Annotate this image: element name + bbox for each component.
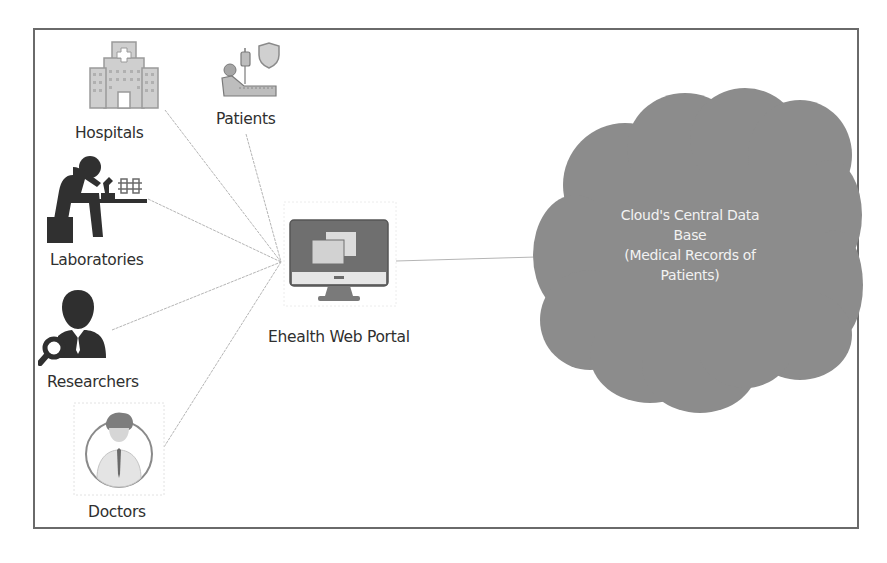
- edge-patients-portal: [246, 134, 281, 262]
- researchers-label: Researchers: [47, 373, 139, 391]
- edge-doctors-portal: [164, 262, 281, 447]
- edge-laboratories-portal: [148, 199, 281, 262]
- laboratories-label: Laboratories: [50, 251, 144, 269]
- patients-label: Patients: [216, 110, 276, 128]
- edge-researchers-portal: [112, 262, 281, 330]
- hospital-icon: [88, 40, 160, 110]
- cloud-line-1: Cloud's Central Data: [590, 205, 790, 225]
- doctors-label: Doctors: [88, 503, 146, 521]
- doctor-icon: [73, 402, 165, 496]
- lab-scientist-icon: [45, 153, 150, 248]
- hospitals-label: Hospitals: [75, 124, 144, 142]
- researcher-icon: [38, 288, 116, 366]
- monitor-icon: [282, 200, 398, 308]
- edge-portal-cloud: [396, 257, 536, 261]
- portal-label: Ehealth Web Portal: [268, 328, 410, 346]
- cloud-database-label: Cloud's Central Data Base (Medical Recor…: [590, 205, 790, 285]
- cloud-line-3: (Medical Records of: [590, 245, 790, 265]
- edge-hospitals-portal: [165, 110, 281, 262]
- cloud-line-4: Patients): [590, 265, 790, 285]
- cloud-line-2: Base: [590, 225, 790, 245]
- patient-bed-icon: [219, 40, 281, 100]
